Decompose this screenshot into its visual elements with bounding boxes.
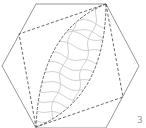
dashed-square (19, 4, 123, 127)
geometry-diagram (0, 0, 146, 128)
lens-arc-left (36, 4, 106, 127)
wavy-hatch-fill (0, 0, 132, 128)
corner-mark: 3 (137, 116, 143, 125)
lens-arc-right (36, 4, 106, 127)
hexagon-outline (2, 4, 139, 128)
